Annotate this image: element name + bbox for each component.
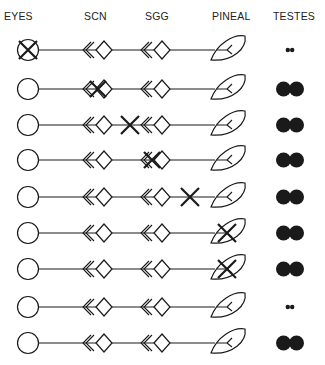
testes-small-icon — [286, 48, 295, 52]
eye-icon — [18, 223, 39, 244]
eye-icon — [18, 79, 39, 100]
diagram-row — [18, 146, 305, 171]
lesion-diagram — [0, 0, 325, 365]
eye-icon — [18, 297, 39, 318]
diagram-row — [18, 329, 305, 354]
diagram-row — [18, 111, 305, 136]
diagram-row — [18, 75, 305, 100]
eye-icon — [18, 187, 39, 208]
testes-large-icon — [276, 82, 304, 97]
eye-icon — [18, 333, 39, 354]
pineal-gland-icon — [211, 36, 245, 60]
testes-large-icon — [276, 118, 304, 133]
pineal-gland-icon — [211, 75, 245, 99]
testes-large-icon — [276, 336, 304, 351]
testes-large-icon — [276, 153, 304, 168]
eye-icon — [18, 259, 39, 280]
pineal-gland-icon — [211, 146, 245, 170]
pineal-gland-icon — [211, 183, 245, 207]
pineal-gland-icon — [211, 111, 245, 135]
diagram-row — [18, 219, 305, 244]
diagram-row — [18, 36, 295, 61]
testes-large-icon — [276, 262, 304, 277]
testes-large-icon — [276, 190, 304, 205]
testes-large-icon — [276, 226, 304, 241]
pineal-gland-icon — [211, 329, 245, 353]
diagram-row — [18, 293, 295, 318]
eye-icon — [18, 115, 39, 136]
diagram-row — [18, 183, 305, 208]
diagram-row — [18, 255, 305, 280]
eye-icon — [18, 150, 39, 171]
testes-small-icon — [286, 305, 295, 309]
pineal-gland-icon — [211, 293, 245, 317]
